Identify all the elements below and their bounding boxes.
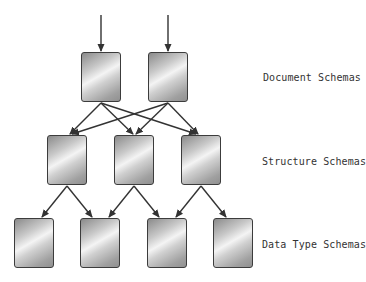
dependency-arrow (42, 186, 67, 217)
dependency-arrow (109, 186, 134, 217)
structure-schemas-label: Structure Schemas (262, 156, 366, 167)
dependency-arrow (101, 103, 196, 134)
data-type-schema-box (14, 218, 54, 268)
data-type-schema-box (147, 218, 187, 268)
dependency-arrow (201, 186, 226, 217)
document-schema-box (81, 52, 121, 102)
data-type-schema-box (213, 218, 253, 268)
document-schemas-label: Document Schemas (263, 72, 361, 83)
dependency-arrow (134, 186, 159, 217)
dependency-arrow (176, 186, 201, 217)
data-type-schema-box (80, 218, 120, 268)
dependency-arrow (67, 186, 92, 217)
structure-schema-box (114, 135, 154, 185)
structure-schema-box (47, 135, 87, 185)
data-type-schemas-label: Data Type Schemas (262, 239, 366, 250)
structure-schema-box (181, 135, 221, 185)
document-schema-box (148, 52, 188, 102)
